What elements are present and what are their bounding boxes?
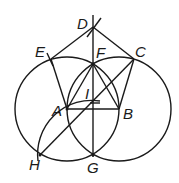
label-i: I [85,86,89,101]
label-b: B [123,106,133,121]
point-f-dot [91,62,95,66]
point-g-dot [92,154,95,157]
label-a: A [52,103,62,118]
label-f: F [96,45,105,60]
label-c: C [135,44,146,59]
point-a-dot [66,108,69,111]
line-bf [93,64,119,109]
geometric-construction-diagram: D E F C I A B H G [0,0,179,183]
construction-drawing [0,0,179,183]
label-d: D [77,16,88,31]
label-g: G [87,160,99,175]
label-h: H [29,157,40,172]
label-e: E [35,44,45,59]
